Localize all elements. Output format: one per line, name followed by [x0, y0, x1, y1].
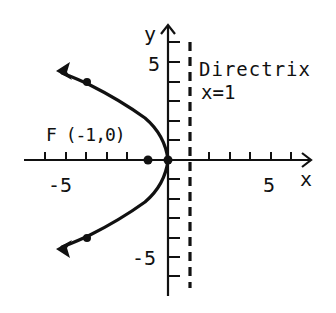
- point-lower: [83, 234, 91, 242]
- x-tick-label-neg5: -5: [48, 173, 72, 197]
- x-tick-label-5: 5: [263, 173, 275, 197]
- x-axis-label: x: [300, 167, 312, 191]
- directrix-title: Directrix: [199, 58, 311, 80]
- arrowhead-lower-icon: [56, 240, 72, 258]
- arrowhead-upper-icon: [56, 62, 72, 80]
- vertex-point: [164, 156, 173, 165]
- directrix-equation: x=1: [201, 81, 235, 103]
- point-upper: [83, 78, 91, 86]
- y-tick-label-neg5: -5: [132, 246, 156, 270]
- y-tick-label-5: 5: [148, 52, 160, 76]
- y-axis-label: y: [144, 22, 156, 46]
- parabola-figure: y x 5 -5 -5 5 F (-1,0) Directrix x=1: [0, 0, 336, 313]
- focus-point: [144, 156, 153, 165]
- focus-label: F (-1,0): [46, 124, 125, 145]
